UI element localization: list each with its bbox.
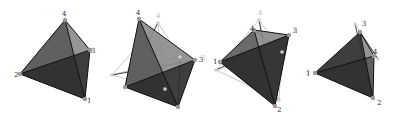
vertex-label: 4 — [136, 9, 141, 17]
ghost-vertex — [280, 50, 284, 54]
ghost-vertex — [163, 87, 167, 91]
ghost-vertex — [178, 55, 182, 59]
ghost-vertex — [257, 18, 261, 22]
vertex-label: 4 — [373, 48, 378, 56]
tetra-2: 434 — [110, 9, 203, 109]
vertex-label: 2 — [277, 106, 281, 114]
ghost-vertex — [353, 22, 357, 26]
vertex-4 — [63, 18, 67, 22]
vertex-1 — [176, 105, 180, 109]
ghost-vertex — [214, 68, 218, 72]
vertex-1 — [313, 71, 317, 75]
vertex-label: 2 — [377, 99, 381, 107]
vertex-1 — [218, 60, 222, 64]
tetra-4: 34123 — [293, 20, 381, 107]
vertex-2 — [371, 96, 375, 100]
vertex-4 — [137, 17, 141, 21]
vertex-label: 2 — [14, 71, 18, 79]
tetra-3: 3412431 — [201, 9, 310, 114]
vertex-label: 4 — [250, 25, 255, 33]
ghost-vertex — [156, 21, 160, 25]
vertex-3 — [287, 33, 291, 37]
vertex-2 — [123, 85, 127, 89]
vertex-label: 1 — [306, 70, 310, 78]
tetra-faces — [220, 30, 289, 106]
tetrahedra-figure: 4321434341243134123 — [0, 0, 393, 117]
ghost-vertex-label: 4 — [258, 9, 263, 17]
ghost-vertex — [110, 73, 114, 77]
vertex-label: 1 — [213, 58, 217, 66]
vertex-label: 1 — [87, 97, 91, 105]
ghost-vertex-label: 3 — [293, 26, 297, 34]
vertex-3 — [193, 58, 197, 62]
vertex-label: 4 — [62, 10, 67, 18]
tetra-faces — [125, 19, 195, 107]
vertex-label: 3 — [91, 47, 95, 55]
ghost-vertex — [277, 98, 281, 102]
tetra-1: 4321 — [14, 10, 95, 105]
ghost-vertex-label: 3 — [201, 54, 205, 62]
vertex-label: 3 — [362, 20, 366, 28]
vertex-3 — [358, 30, 362, 34]
ghost-vertex-label: 4 — [156, 12, 161, 20]
ghost-vertex — [376, 57, 380, 61]
